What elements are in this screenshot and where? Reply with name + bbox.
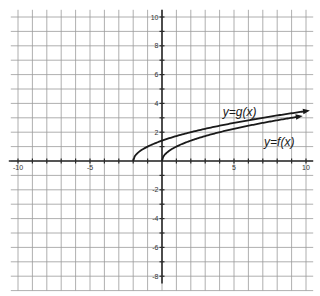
y-tick-label: 4 [155, 100, 159, 107]
x-tick-label: 5 [232, 164, 236, 171]
arrow-head-icon [295, 114, 302, 120]
curve-label-g: y=g(x) [222, 105, 257, 119]
function-graph: -10 -5 5 10 10 8 6 4 2 -2 -4 -6 -8 y=g(x… [0, 0, 320, 296]
x-tick-label: -5 [87, 164, 93, 171]
y-tick-label: 8 [155, 42, 159, 49]
y-tick-label: -2 [152, 186, 158, 193]
x-tick-label: 10 [302, 164, 310, 171]
y-tick-label: 6 [155, 71, 159, 78]
y-tick-label: 2 [155, 129, 159, 136]
y-tick-label: -8 [152, 273, 158, 280]
y-tick-label: -4 [152, 215, 158, 222]
y-tick-label: 10 [151, 14, 159, 21]
curve-label-f: y=f(x) [263, 135, 294, 149]
y-tick-label: -6 [152, 244, 158, 251]
x-tick-label: -10 [13, 164, 23, 171]
